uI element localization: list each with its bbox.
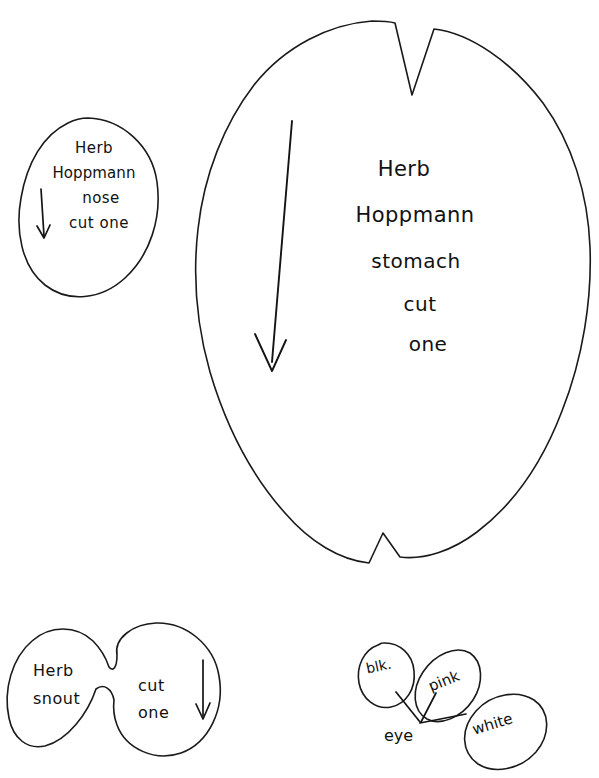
stomach-label-line-3: stomach xyxy=(322,238,510,284)
nose-label-line-4: cut one xyxy=(44,211,154,236)
snout-left-line-2: snout xyxy=(33,685,80,713)
stomach-label-line-1: Herb xyxy=(298,146,510,192)
nose-label-line-2: Hoppmann xyxy=(34,161,154,186)
stomach-label-line-5: one xyxy=(346,324,510,364)
pattern-sheet: Herb Hoppmann nose cut one Herb Hoppmann… xyxy=(0,0,599,778)
snout-right-line-1: cut xyxy=(138,672,169,699)
stomach-piece-label: Herb Hoppmann stomach cut one xyxy=(320,146,510,364)
eye-leader-pink xyxy=(421,693,436,722)
stomach-label-line-2: Hoppmann xyxy=(320,192,510,238)
stomach-grain-arrow-shaft xyxy=(272,121,292,362)
snout-right-label: cut one xyxy=(138,672,169,726)
snout-left-label: Herb snout xyxy=(33,657,80,713)
snout-right-line-2: one xyxy=(138,699,169,726)
stomach-label-line-4: cut xyxy=(330,284,510,324)
snout-left-line-1: Herb xyxy=(33,657,80,685)
eye-key-label: eye xyxy=(384,726,413,745)
pattern-drawing xyxy=(0,0,599,778)
nose-piece-label: Herb Hoppmann nose cut one xyxy=(34,136,154,236)
nose-label-line-3: nose xyxy=(48,186,154,211)
nose-label-line-1: Herb xyxy=(34,136,154,161)
stomach-grain-arrow-head xyxy=(255,334,286,371)
